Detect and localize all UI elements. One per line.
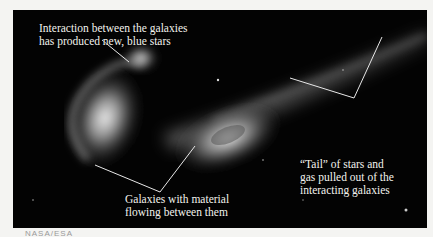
image-credit: NASA/ESA (25, 229, 73, 237)
annotation-new-blue-stars: Interaction between the galaxies has pro… (39, 22, 187, 48)
annotation-tail: “Tail” of stars and gas pulled out of th… (300, 158, 394, 197)
annotation-line: Interaction between the galaxies (39, 22, 187, 35)
annotation-material-flow: Galaxies with material flowing between t… (125, 193, 229, 219)
annotation-line: has produced new, blue stars (39, 35, 187, 48)
annotation-line: flowing between them (125, 206, 229, 219)
annotation-line: interacting galaxies (300, 184, 394, 197)
annotation-line: Galaxies with material (125, 193, 229, 206)
annotation-line: “Tail” of stars and (300, 158, 394, 171)
annotation-line: gas pulled out of the (300, 171, 394, 184)
galaxy-image: Interaction between the galaxies has pro… (13, 10, 427, 228)
